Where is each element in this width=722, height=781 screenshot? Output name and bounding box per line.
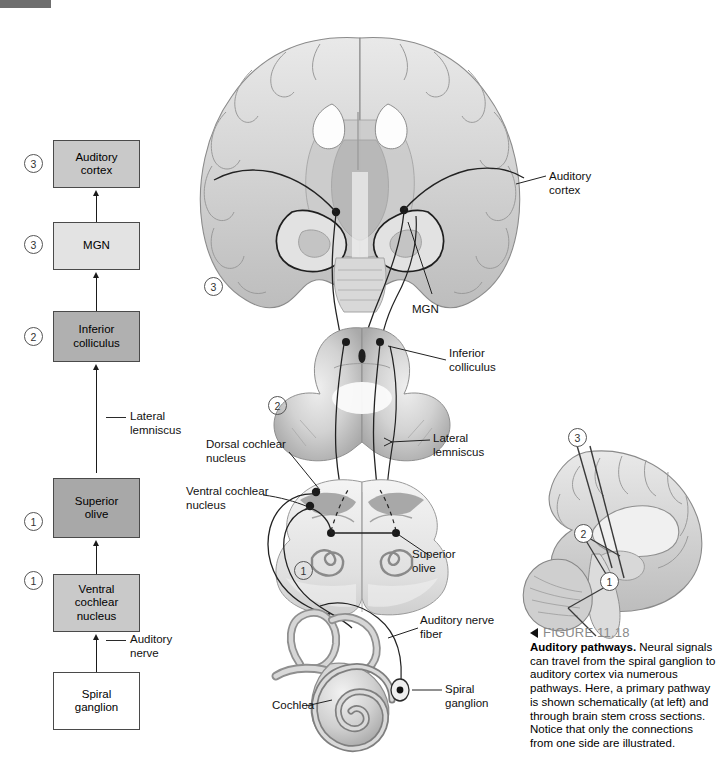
superior-olive-left-dot [327, 529, 335, 537]
flowchart-label-lateral-lemniscus: Lateral lemniscus [130, 410, 181, 437]
leader-auditory-nerve [106, 640, 126, 641]
section-marker-forebrain: 3 [204, 277, 223, 296]
leader-mgn [408, 222, 432, 294]
auditory-nerve-fiber-path [320, 603, 401, 690]
ic-nucleus-right [376, 338, 384, 346]
caption-triangle-icon [530, 628, 538, 638]
cochlear-nerve-entry [268, 494, 330, 614]
figure-root: 3 Auditory cortex 3 MGN 2 Inferior colli… [0, 0, 722, 781]
leader-lateral-lemniscus-anatomy [390, 440, 430, 442]
leader-dorsal-cochlear-nucleus [289, 452, 320, 490]
marker-number: 3 [575, 432, 581, 444]
inset-marker-2: 2 [574, 524, 593, 543]
flowchart-marker-inferior-colliculus: 2 [24, 327, 43, 346]
arrowhead-so-to-ic [93, 364, 99, 370]
flowchart-box-mgn[interactable]: MGN [53, 222, 140, 270]
caption-text: Auditory pathways. Neural signals can tr… [530, 641, 718, 751]
leader-auditory-nerve-fiber [388, 628, 418, 638]
caption-title: Auditory pathways. [530, 641, 636, 653]
spiral-ganglion-marker [391, 679, 409, 701]
flowchart-marker-superior-olive: 1 [24, 512, 43, 531]
marker-number: 2 [581, 528, 587, 540]
figure-number: FIGURE 11.18 [543, 625, 630, 640]
flowchart-box-inferior-colliculus[interactable]: Inferior colliculus [53, 311, 140, 362]
marker-number: 2 [275, 400, 281, 412]
marker-number: 3 [211, 281, 217, 293]
coronal-forebrain-section [200, 38, 524, 366]
anatomy-label-cochlea: Cochlea [272, 699, 314, 713]
anatomy-label-dorsal-cochlear-nucleus: Dorsal cochlear nucleus [206, 438, 286, 465]
flowchart-marker-ventral-cochlear-nucleus: 1 [24, 571, 43, 590]
leader-lateral-lemniscus [106, 417, 126, 418]
anatomy-label-spiral-ganglion: Spiral ganglion [445, 683, 488, 710]
mgn-nucleus-left [332, 208, 340, 216]
figure-number-row: FIGURE 11.18 [530, 625, 718, 640]
olive-right [381, 550, 412, 575]
arrowhead-ic-to-mgn [93, 272, 99, 278]
superior-olive-right-dot [392, 529, 400, 537]
flowchart-box-superior-olive[interactable]: Superior olive [53, 478, 140, 538]
tract-mgn-to-cortex-right [404, 168, 524, 210]
arrowhead-vcn-to-so [93, 540, 99, 546]
flowchart-box-spiral-ganglion[interactable]: Spiral ganglion [53, 672, 140, 730]
flowchart-marker-auditory-cortex: 3 [24, 154, 43, 173]
marker-number: 1 [31, 516, 37, 528]
mgn-nucleus-right [400, 206, 408, 214]
cochlea-illustration [276, 603, 409, 749]
tract-mgn-to-cortex-left [214, 170, 336, 212]
anatomy-label-ventral-cochlear-nucleus: Ventral cochlear nucleus [186, 485, 268, 512]
anatomy-label-mgn: MGN [412, 303, 439, 317]
flowchart-label-auditory-nerve: Auditory nerve [130, 633, 172, 660]
flowchart-marker-mgn: 3 [24, 235, 43, 254]
marker-number: 1 [607, 576, 613, 588]
arrowhead-sg-to-vcn [93, 634, 99, 640]
anatomy-label-lateral-lemniscus: Lateral lemniscus [433, 432, 484, 459]
section-marker-midbrain: 2 [268, 396, 287, 415]
marker-number: 1 [301, 565, 307, 577]
ventral-cochlear-nucleus-dot [306, 502, 314, 510]
marker-number: 2 [31, 331, 37, 343]
arrowhead-mgn-to-cortex [93, 190, 99, 196]
flowchart-box-ventral-cochlear-nucleus[interactable]: Ventral cochlear nucleus [53, 574, 140, 632]
leader-auditory-cortex [516, 176, 546, 184]
olive-left [312, 550, 343, 575]
anatomy-label-auditory-cortex: Auditory cortex [549, 170, 591, 197]
leader-ventral-cochlear-nucleus [263, 495, 306, 506]
midbrain-section [274, 328, 450, 512]
caption-body: Neural signals can travel from the spira… [530, 641, 715, 749]
leader-inferior-colliculus [388, 346, 446, 360]
inset-marker-1: 1 [600, 572, 619, 591]
flowchart-box-auditory-cortex[interactable]: Auditory cortex [53, 140, 140, 188]
arrow-so-to-ic [96, 370, 97, 473]
marker-number: 1 [31, 575, 37, 587]
marker-number: 3 [31, 239, 37, 251]
anatomy-label-inferior-colliculus: Inferior colliculus [449, 347, 496, 374]
dorsal-cochlear-nucleus-dot [312, 488, 320, 496]
section-marker-brainstem: 1 [294, 561, 313, 580]
section-plane-3 [576, 442, 612, 568]
ic-nucleus-left [342, 338, 350, 346]
marker-number: 3 [31, 158, 37, 170]
sagittal-brain-inset [523, 442, 702, 638]
page-marker-bar [0, 0, 51, 8]
anatomy-label-auditory-nerve-fiber: Auditory nerve fiber [420, 614, 494, 641]
arrow-ic-to-mgn [96, 278, 97, 315]
inset-marker-3: 3 [568, 428, 587, 447]
anatomy-label-superior-olive: Superior olive [412, 548, 455, 575]
figure-caption: FIGURE 11.18 Auditory pathways. Neural s… [530, 625, 718, 751]
